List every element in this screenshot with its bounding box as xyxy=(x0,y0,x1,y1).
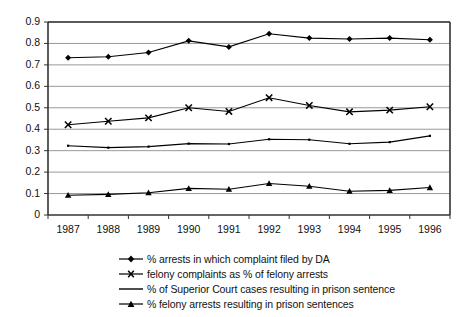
x-tick-label: 1988 xyxy=(88,223,128,235)
series-layer xyxy=(65,31,433,198)
x-tick-label: 1992 xyxy=(249,223,289,235)
y-tick-label: 0.9 xyxy=(0,15,40,27)
data-point xyxy=(146,49,152,55)
data-point xyxy=(105,54,111,60)
x-tick-label: 1987 xyxy=(48,223,88,235)
series-line xyxy=(68,98,430,125)
x-tick-label: 1991 xyxy=(209,223,249,235)
data-point xyxy=(65,55,71,61)
data-point xyxy=(348,143,350,145)
line-chart: 00.10.20.30.40.50.60.70.80.9 19871988198… xyxy=(0,0,473,317)
y-tick-label: 0.3 xyxy=(0,144,40,156)
legend-item: % of Superior Court cases resulting in p… xyxy=(118,281,458,296)
x-tick-label: 1989 xyxy=(129,223,169,235)
legend-key-diamond-icon xyxy=(118,253,144,265)
data-point xyxy=(429,135,431,137)
y-tick-label: 0.8 xyxy=(0,36,40,48)
data-point xyxy=(427,37,433,43)
x-tick-label: 1990 xyxy=(169,223,209,235)
legend-label: % arrests in which complaint filed by DA xyxy=(147,253,330,265)
series-line xyxy=(68,136,430,148)
legend-item: % felony arrests resulting in prison sen… xyxy=(118,296,458,311)
x-tick-label: 1994 xyxy=(330,223,370,235)
data-point xyxy=(347,36,353,42)
legend-label: % felony arrests resulting in prison sen… xyxy=(147,298,354,310)
data-point xyxy=(268,138,270,140)
data-point xyxy=(389,141,391,143)
x-tick-label: 1995 xyxy=(370,223,410,235)
data-point xyxy=(387,35,393,41)
data-point xyxy=(67,145,69,147)
y-tick-label: 0 xyxy=(0,208,40,220)
data-point xyxy=(228,143,230,145)
legend-item: felony complaints as % of felony arrests xyxy=(118,266,458,281)
data-point xyxy=(147,145,149,147)
y-tick-label: 0.2 xyxy=(0,165,40,177)
y-tick-label: 0.4 xyxy=(0,122,40,134)
legend-item: % arrests in which complaint filed by DA xyxy=(118,251,458,266)
data-point xyxy=(308,139,310,141)
data-point xyxy=(188,142,190,144)
y-tick-label: 0.7 xyxy=(0,58,40,70)
series-3 xyxy=(65,180,433,198)
x-tick-label: 1996 xyxy=(410,223,450,235)
y-tick-label: 0.1 xyxy=(0,187,40,199)
series-1 xyxy=(65,94,433,127)
series-0 xyxy=(65,31,433,61)
legend-label: felony complaints as % of felony arrests xyxy=(147,268,328,280)
series-2 xyxy=(67,135,431,149)
x-tick-label: 1993 xyxy=(289,223,329,235)
legend-key-triangle-icon xyxy=(118,298,144,310)
y-tick-label: 0.6 xyxy=(0,79,40,91)
legend-key-line-icon xyxy=(118,283,144,295)
legend-key-x-icon xyxy=(118,268,144,280)
chart-legend: % arrests in which complaint filed by DA… xyxy=(118,251,458,311)
y-tick-label: 0.5 xyxy=(0,101,40,113)
data-point xyxy=(266,31,272,37)
series-line xyxy=(68,34,430,58)
legend-label: % of Superior Court cases resulting in p… xyxy=(147,283,395,295)
data-point xyxy=(306,35,312,41)
data-point xyxy=(226,44,232,50)
data-point xyxy=(107,147,109,149)
